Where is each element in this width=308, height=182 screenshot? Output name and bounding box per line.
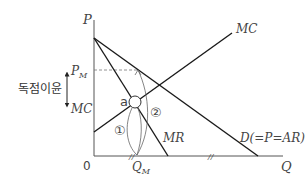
origin-label: 0 [83,159,91,173]
x-axis-label: Q [281,159,292,174]
arc-2 [137,70,148,155]
qm-label: QM [132,160,151,176]
arc-1 [127,108,141,155]
mc-level-label: MC [70,102,92,116]
point-a-marker [129,96,141,108]
monopoly-profit-label: 독점이윤 [18,82,62,96]
circle-2-label: ② [150,105,162,120]
pm-label: PM [70,64,88,80]
mc-curve-label: MC [235,22,257,36]
demand-curve-label: D(=P=AR) [239,131,305,145]
monopoly-diagram: P Q 0 a ① ② // // MC MR D(=P=AR) PM MC Q… [0,0,308,182]
point-a-label: a [120,94,128,109]
mr-curve-label: MR [162,131,184,145]
circle-1-label: ① [114,123,126,138]
mc-curve [94,33,232,132]
y-axis-label: P [82,12,92,27]
